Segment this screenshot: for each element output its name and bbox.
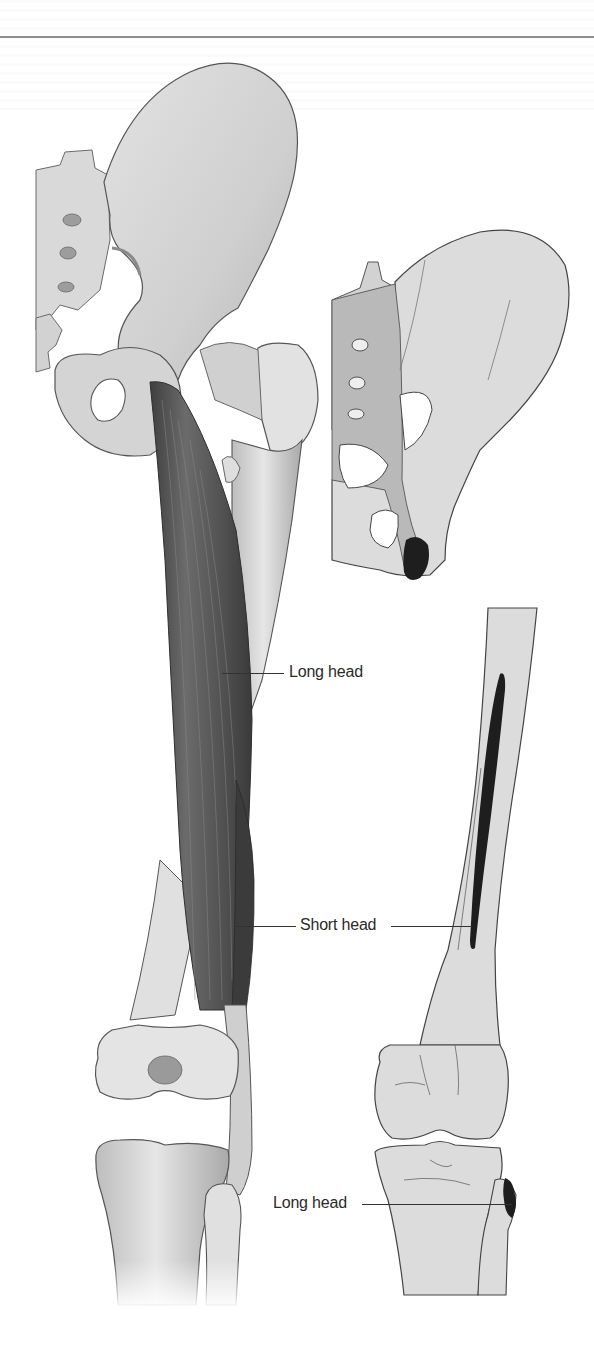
leader-line-long-head-lower xyxy=(362,1204,512,1205)
intercondylar-fossa xyxy=(148,1056,182,1084)
femoral-neck xyxy=(200,343,262,421)
sacral-foramen-3 xyxy=(58,282,74,292)
label-long-head-upper: Long head xyxy=(289,663,363,681)
bottom-fade xyxy=(80,1260,270,1310)
inset-sacral-foramen-1 xyxy=(352,339,368,351)
label-short-head: Short head xyxy=(300,916,376,934)
main-illustration xyxy=(36,63,318,1310)
inset-sacral-foramen-2 xyxy=(349,377,365,389)
inset-sacral-foramen-3 xyxy=(348,409,364,419)
sacral-foramen-1 xyxy=(63,214,81,226)
leader-line-short-head-left xyxy=(236,926,296,927)
sacral-foramen-2 xyxy=(60,247,76,259)
label-long-head-lower: Long head xyxy=(273,1194,347,1212)
femur-inset xyxy=(375,608,537,1295)
pelvis-inset xyxy=(332,230,569,580)
leader-line-long-head-upper xyxy=(222,673,284,674)
inset-femoral-condyles xyxy=(375,1045,508,1139)
sacrum xyxy=(36,150,110,330)
leader-line-short-head-right xyxy=(391,926,472,927)
